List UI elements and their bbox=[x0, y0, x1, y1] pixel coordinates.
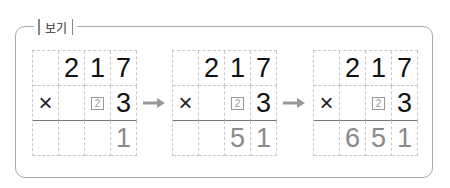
right-arrow-icon bbox=[143, 98, 165, 108]
cell: 1 bbox=[85, 51, 111, 86]
carry-box: 2 bbox=[91, 97, 104, 110]
cell: 2 bbox=[340, 51, 366, 86]
cell bbox=[33, 51, 59, 86]
result-cell: 1 bbox=[111, 121, 137, 156]
cell: 1 bbox=[366, 51, 392, 86]
times-sign: × bbox=[314, 86, 340, 121]
cell bbox=[173, 51, 199, 86]
result-cell bbox=[314, 121, 340, 156]
cell: 3 bbox=[392, 86, 418, 121]
label-divider bbox=[72, 19, 74, 35]
example-label: 보기 bbox=[34, 17, 77, 37]
result-cell bbox=[199, 121, 225, 156]
result-cell: 6 bbox=[340, 121, 366, 156]
carry-box: 2 bbox=[372, 97, 385, 110]
result-cell bbox=[33, 121, 59, 156]
cell bbox=[340, 86, 366, 121]
carry-box: 2 bbox=[231, 97, 244, 110]
cell: 3 bbox=[111, 86, 137, 121]
cell bbox=[59, 86, 85, 121]
carry-cell: 2 bbox=[225, 86, 251, 121]
carry-cell: 2 bbox=[366, 86, 392, 121]
times-sign: × bbox=[173, 86, 199, 121]
result-cell: 1 bbox=[392, 121, 418, 156]
cell: 3 bbox=[251, 86, 277, 121]
result-cell: 5 bbox=[366, 121, 392, 156]
label-text: 보기 bbox=[40, 19, 72, 36]
multiplication-grid-step-3: 2 1 7 × 2 3 6 5 1 bbox=[313, 50, 418, 156]
cell: 7 bbox=[392, 51, 418, 86]
result-cell bbox=[173, 121, 199, 156]
cell bbox=[314, 51, 340, 86]
result-cell: 1 bbox=[251, 121, 277, 156]
cell: 7 bbox=[251, 51, 277, 86]
cell bbox=[199, 86, 225, 121]
result-cell bbox=[59, 121, 85, 156]
multiplication-grid-step-1: 2 1 7 × 2 3 1 bbox=[32, 50, 137, 156]
cell: 7 bbox=[111, 51, 137, 86]
times-sign: × bbox=[33, 86, 59, 121]
right-arrow-icon bbox=[283, 98, 305, 108]
cell: 2 bbox=[59, 51, 85, 86]
multiplication-grid-step-2: 2 1 7 × 2 3 5 1 bbox=[172, 50, 277, 156]
result-cell: 5 bbox=[225, 121, 251, 156]
cell: 1 bbox=[225, 51, 251, 86]
carry-cell: 2 bbox=[85, 86, 111, 121]
result-cell bbox=[85, 121, 111, 156]
cell: 2 bbox=[199, 51, 225, 86]
